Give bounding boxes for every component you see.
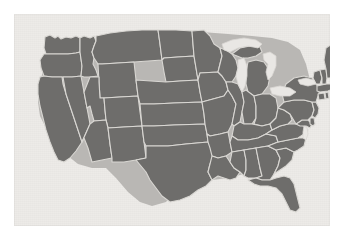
- state-rhode-island[interactable]: [325, 92, 329, 99]
- state-oregon[interactable]: [40, 52, 82, 77]
- state-nebraska[interactable]: [136, 80, 202, 104]
- state-montana[interactable]: [92, 30, 162, 64]
- us-map-container: [14, 14, 330, 226]
- chesapeake-bay: [303, 126, 308, 140]
- state-massachusetts[interactable]: [317, 84, 330, 92]
- state-south-dakota[interactable]: [162, 56, 198, 82]
- state-washington[interactable]: [44, 35, 80, 54]
- map-image-root: [0, 0, 343, 238]
- state-connecticut[interactable]: [318, 93, 325, 100]
- state-delaware[interactable]: [310, 118, 315, 126]
- state-colorado[interactable]: [104, 96, 142, 128]
- state-florida[interactable]: [248, 176, 300, 212]
- united-states-map: [14, 14, 330, 226]
- state-north-dakota[interactable]: [158, 30, 194, 60]
- state-new-mexico[interactable]: [108, 126, 146, 162]
- state-wyoming[interactable]: [98, 62, 138, 98]
- state-kansas[interactable]: [140, 102, 205, 126]
